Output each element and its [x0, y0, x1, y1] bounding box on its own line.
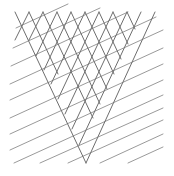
lattice-diagram [0, 0, 174, 176]
